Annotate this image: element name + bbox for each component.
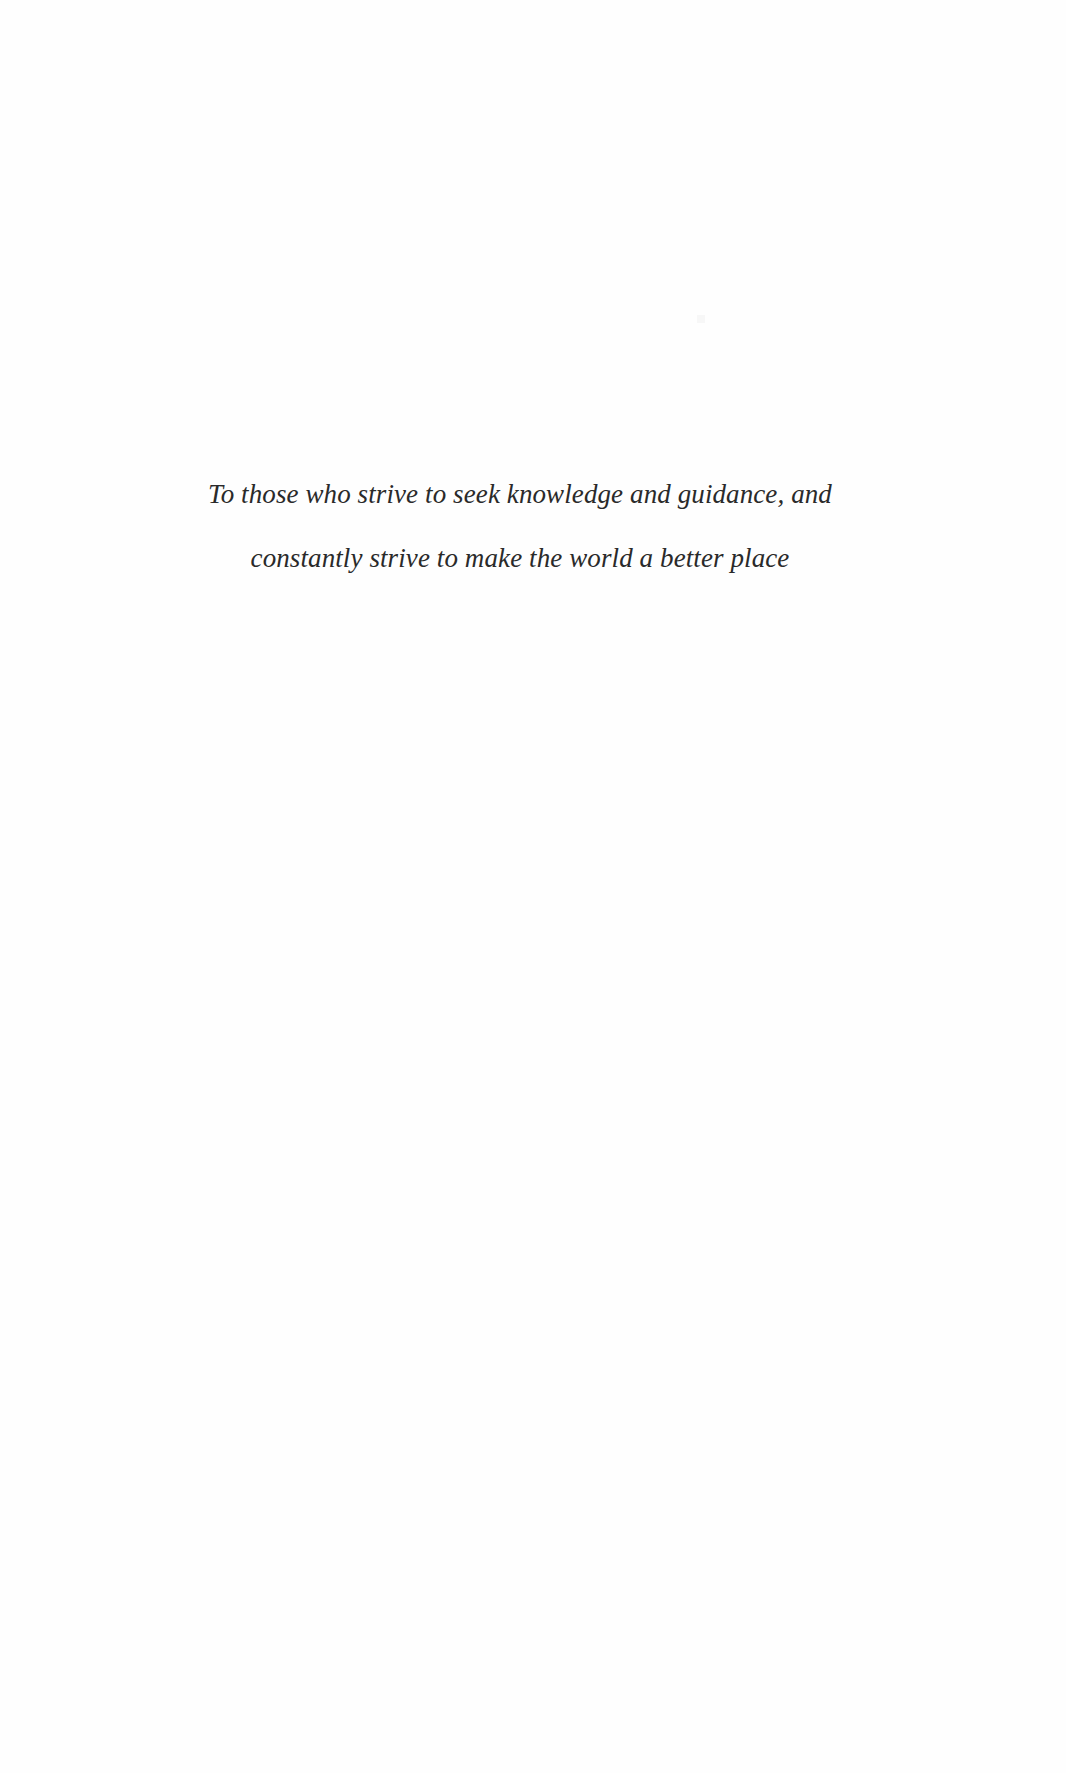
scan-artifact: [697, 315, 705, 323]
book-page: To those who strive to seek knowledge an…: [0, 0, 1066, 1773]
dedication-line-1: To those who strive to seek knowledge an…: [0, 462, 1040, 526]
dedication-text: To those who strive to seek knowledge an…: [0, 462, 1040, 590]
dedication-line-2: constantly strive to make the world a be…: [0, 526, 1040, 590]
